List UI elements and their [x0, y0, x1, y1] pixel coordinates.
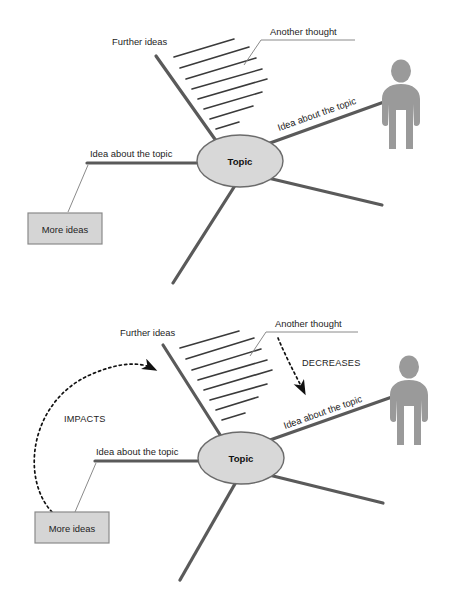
label-further-ideas: Further ideas	[120, 327, 176, 338]
label-idea-left: Idea about the topic	[96, 446, 179, 457]
diagram-annotated-mind-map: IMPACTS DECREASES Topic More ideas Furth…	[0, 300, 451, 600]
label-another-thought: Another thought	[270, 26, 337, 37]
relation-decreases-label: DECREASES	[302, 358, 360, 368]
label-another-thought: Another thought	[275, 318, 342, 329]
center-node-label: Topic	[228, 156, 254, 167]
more-ideas-label: More ideas	[49, 523, 96, 534]
label-idea-left: Idea about the topic	[90, 148, 173, 159]
page-root: Topic More ideas Further ideas Another t…	[0, 0, 451, 601]
relation-impacts-label: IMPACTS	[64, 414, 106, 424]
center-node-label: Topic	[229, 453, 255, 464]
diagram-plain-mind-map: Topic More ideas Further ideas Another t…	[0, 0, 451, 300]
label-further-ideas: Further ideas	[112, 36, 168, 47]
more-ideas-label: More ideas	[42, 224, 89, 235]
